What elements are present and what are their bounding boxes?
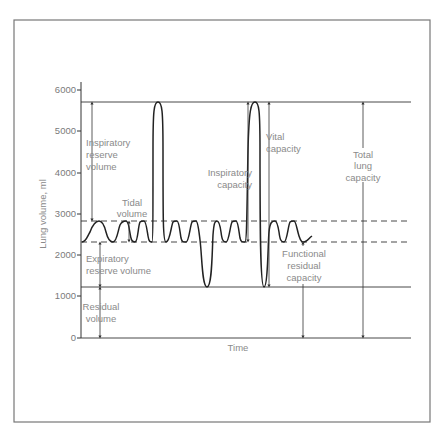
lung-volumes-diagram: 6000 5000 4000 3000 2000 1000 0 Lung vol… [0, 0, 441, 436]
erv-label: Expiratory reserve volume [86, 253, 151, 276]
svg-text:Tidal: Tidal [122, 197, 142, 208]
diagram-canvas: 6000 5000 4000 3000 2000 1000 0 Lung vol… [0, 0, 441, 436]
svg-text:Inspiratory: Inspiratory [86, 137, 131, 148]
svg-text:Residual: Residual [83, 301, 120, 312]
svg-text:capacity: capacity [346, 172, 381, 183]
svg-text:capacity: capacity [266, 143, 301, 154]
frc-label: Functional residual capacity [282, 248, 326, 283]
svg-text:residual: residual [287, 260, 320, 271]
tidal-volume-label: Tidal volume [117, 197, 148, 219]
x-axis-label: Time [228, 342, 249, 353]
svg-text:reserve volume: reserve volume [86, 265, 151, 276]
svg-text:capacity: capacity [217, 179, 252, 190]
inspiratory-capacity-label: Inspiratory capacity [208, 167, 253, 190]
svg-text:Total: Total [353, 149, 373, 160]
y-tick-label: 0 [71, 332, 76, 343]
svg-text:reserve: reserve [86, 149, 118, 160]
y-tick-label: 2000 [55, 249, 76, 260]
residual-volume-label: Residual volume [83, 301, 120, 324]
svg-text:volume: volume [86, 161, 117, 172]
y-tick-label: 6000 [55, 84, 76, 95]
irv-label: Inspiratory reserve volume [86, 137, 131, 172]
y-ticks [77, 90, 81, 338]
y-tick-label: 3000 [55, 208, 76, 219]
svg-text:Functional: Functional [282, 248, 326, 259]
svg-text:volume: volume [117, 208, 148, 219]
y-tick-label: 1000 [55, 290, 76, 301]
svg-text:Vital: Vital [266, 131, 284, 142]
svg-text:capacity: capacity [287, 272, 322, 283]
y-tick-label: 5000 [55, 125, 76, 136]
svg-text:lung: lung [354, 160, 372, 171]
svg-text:Inspiratory: Inspiratory [208, 167, 253, 178]
svg-text:volume: volume [86, 313, 117, 324]
y-tick-label: 4000 [55, 167, 76, 178]
y-axis-label: Lung volume, ml [37, 179, 48, 249]
vital-capacity-label: Vital capacity [266, 131, 301, 154]
svg-text:Expiratory: Expiratory [86, 253, 129, 264]
